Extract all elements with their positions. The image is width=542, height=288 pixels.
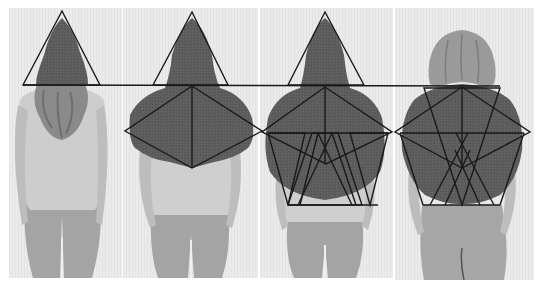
photo-composite	[0, 0, 542, 288]
overlay-svg	[0, 0, 542, 288]
